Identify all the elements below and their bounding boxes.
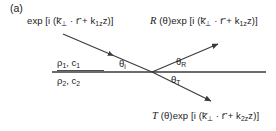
reflected-dot: · [214,15,217,26]
reflected-theta-arg: (θ) [159,15,171,26]
reflected-z: z)] [247,15,258,26]
incident-angle-label: θi [119,59,126,70]
reflected-r: r [220,15,223,26]
transmitted-k-perp: k [202,110,207,121]
incident-plus: + [79,15,90,26]
lower-medium-properties: ρ2, c2 [57,76,80,87]
reflected-prefix: exp [i ( [171,15,200,26]
reflected-kz-sub: 1z [240,20,247,27]
panel-label: (a) [10,3,23,14]
upper-speed-sub: 1 [76,62,80,69]
reflected-k-perp: k [201,15,206,26]
reflected-angle-sub: R [181,61,186,68]
incident-r-vector: →r [76,16,79,26]
reflected-angle-label: θR [176,57,186,68]
transmitted-plus: + [225,110,236,121]
lower-speed-sub: 2 [76,80,80,87]
transmitted-r: r [222,110,225,121]
incident-prefix: exp [i ( [27,15,56,26]
reflection-coefficient: R [150,15,157,26]
transmitted-angle-label: θT [171,75,180,86]
transmitted-z: z)] [248,110,259,121]
incident-k-perp-sub: ⊥ [61,20,67,27]
incident-angle-sub: i [124,63,126,70]
transmitted-k-perp-vector: →k [202,111,207,121]
transmitted-wave-equation: T (θ)exp [i (→k⊥ · →r + k2zz)] [152,111,259,122]
transmitted-dot: · [216,110,219,121]
transmitted-r-vector: →r [222,111,225,121]
incident-dot: · [70,15,73,26]
incident-kz-sub: 1z [95,20,102,27]
transmission-coefficient: T [152,110,158,121]
incident-wave-equation: exp [i (→k⊥ · →r + k1zz)] [27,16,114,27]
upper-medium-properties: ρ1, c1 [57,58,80,69]
reflected-k-perp-vector: →k [201,16,206,26]
incident-k-perp-vector: →k [56,16,61,26]
transmitted-theta-arg: (θ) [161,110,173,121]
reflected-k-perp-sub: ⊥ [205,20,211,27]
reflected-plus: + [224,15,235,26]
transmitted-prefix: exp [i ( [173,110,202,121]
incident-z: z)] [103,15,114,26]
incident-r: r [76,15,79,26]
transmitted-k-perp-sub: ⊥ [207,115,213,122]
incident-k-perp: k [56,15,61,26]
reflected-r-vector: →r [220,16,223,26]
reflected-wave-equation: R (θ)exp [i (→k⊥ · →r + k1zz)] [150,16,258,27]
reflection-transmission-diagram: (a) exp [i (→k⊥ · →r + k1zz)] R (θ)exp [… [0,0,276,131]
transmitted-angle-sub: T [176,79,180,86]
transmitted-ray [152,72,211,101]
